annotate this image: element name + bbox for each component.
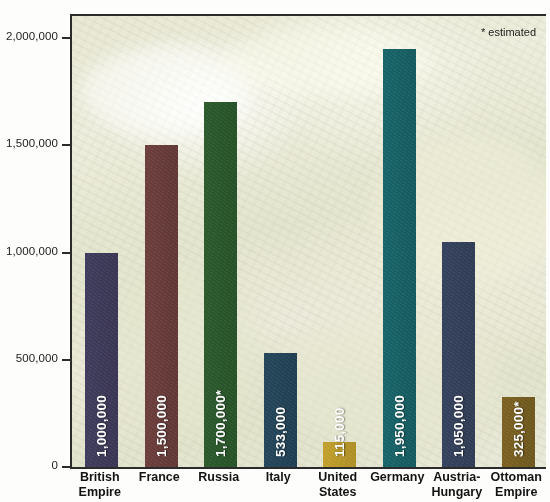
x-axis-label: Germany — [368, 470, 428, 485]
x-axis-labels: BritishEmpireFranceRussiaItalyUnitedStat… — [70, 470, 546, 502]
bar: 1,500,000 — [145, 145, 178, 467]
x-axis-label-line: Hungary — [427, 485, 487, 500]
x-axis-label: OttomanEmpire — [487, 470, 547, 500]
x-axis-label-line: Ottoman — [487, 470, 547, 485]
x-axis-label-line: United — [308, 470, 368, 485]
y-tick-label: 1,500,000 — [6, 137, 58, 149]
bar: 115,000 — [323, 442, 356, 467]
x-axis-line — [70, 467, 546, 469]
x-axis-label: Austria-Hungary — [427, 470, 487, 500]
x-axis-label-line: Russia — [189, 470, 249, 485]
estimated-note: * estimated — [481, 26, 536, 38]
bar: 533,000 — [264, 353, 297, 467]
x-axis-label-line: France — [130, 470, 190, 485]
y-tick-mark — [62, 359, 70, 361]
y-tick-mark — [62, 252, 70, 254]
x-axis-label-line: Empire — [70, 485, 130, 500]
bar: 1,050,000 — [442, 242, 475, 467]
x-axis-label: Russia — [189, 470, 249, 485]
x-axis-label-line: British — [70, 470, 130, 485]
bar-chart: 2,000,0001,500,0001,000,000500,0000 1,00… — [0, 0, 550, 502]
x-axis-label: Italy — [249, 470, 309, 485]
y-tick-mark — [62, 466, 70, 468]
x-axis-label: BritishEmpire — [70, 470, 130, 500]
y-tick-label: 1,000,000 — [6, 245, 58, 257]
bar: 325,000* — [502, 397, 535, 467]
x-axis-label-line: States — [308, 485, 368, 500]
y-tick-label: 500,000 — [16, 352, 58, 364]
x-axis-label-line: Austria- — [427, 470, 487, 485]
y-tick-label: 2,000,000 — [6, 30, 58, 42]
y-tick-label: 0 — [52, 459, 59, 471]
y-tick-mark — [62, 144, 70, 146]
bar: 1,950,000 — [383, 49, 416, 467]
x-axis-label-line: Empire — [487, 485, 547, 500]
x-axis-label-line: Germany — [368, 470, 428, 485]
plot-area: 1,000,0001,500,0001,700,000*533,000115,0… — [70, 14, 546, 467]
x-axis-label: UnitedStates — [308, 470, 368, 500]
y-tick-mark — [62, 37, 70, 39]
photo-smudge-4 — [112, 266, 262, 436]
bar: 1,700,000* — [204, 102, 237, 467]
x-axis-label-line: Italy — [249, 470, 309, 485]
bar: 1,000,000 — [85, 253, 118, 468]
x-axis-label: France — [130, 470, 190, 485]
